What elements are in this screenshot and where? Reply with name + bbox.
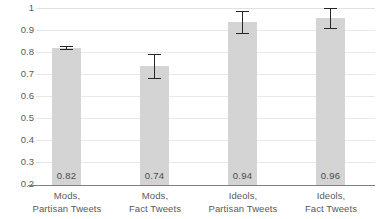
bar-mods-partisan-tweets — [52, 48, 81, 185]
x-axis-label-mods-partisan-tweets: Mods, Partisan Tweets — [22, 190, 112, 215]
error-bar-mods-fact-tweets — [148, 54, 161, 79]
x-axis-label-line2: Fact Tweets — [110, 203, 200, 216]
x-axis-label-line2: Fact Tweets — [286, 203, 376, 216]
x-axis-label-line1: Ideols, — [286, 190, 376, 203]
y-axis-tick-0.7: 0.7 — [0, 69, 34, 78]
x-axis-line — [28, 185, 375, 186]
error-bar-cap-top — [60, 46, 73, 47]
error-bar-cap-bottom — [148, 78, 161, 79]
y-axis-tick-0.3: 0.3 — [0, 157, 34, 166]
error-bar-stem — [330, 8, 331, 29]
x-axis-label-ideols-partisan-tweets: Ideols, Partisan Tweets — [198, 190, 288, 215]
error-bar-cap-bottom — [60, 49, 73, 50]
error-bar-ideols-fact-tweets — [324, 8, 337, 29]
error-bar-cap-bottom — [236, 33, 249, 34]
bar-chart: 1 0.9 0.8 0.7 0.6 0.5 0.4 0.3 0.2 — [0, 0, 379, 219]
error-bar-mods-partisan-tweets — [60, 46, 73, 50]
x-axis-label-mods-fact-tweets: Mods, Fact Tweets — [110, 190, 200, 215]
data-label-ideols-partisan-tweets: 0.94 — [226, 171, 259, 181]
bar-mods-fact-tweets — [140, 66, 169, 185]
data-label-mods-fact-tweets: 0.74 — [138, 171, 171, 181]
x-axis-label-line1: Mods, — [110, 190, 200, 203]
bar-ideols-fact-tweets — [316, 18, 345, 185]
bar-ideols-partisan-tweets — [228, 22, 257, 185]
error-bar-stem — [154, 54, 155, 79]
error-bar-cap-top — [148, 54, 161, 55]
data-label-mods-partisan-tweets: 0.82 — [50, 171, 83, 181]
x-axis-label-line1: Mods, — [22, 190, 112, 203]
y-axis-tick-1: 1 — [0, 3, 34, 12]
y-axis-tick-0.6: 0.6 — [0, 91, 34, 100]
y-axis-tick-0.9: 0.9 — [0, 25, 34, 34]
error-bar-cap-top — [324, 8, 337, 9]
error-bar-ideols-partisan-tweets — [236, 11, 249, 34]
y-axis-tick-0.4: 0.4 — [0, 135, 34, 144]
x-axis-label-line1: Ideols, — [198, 190, 288, 203]
y-axis-tick-0.5: 0.5 — [0, 113, 34, 122]
error-bar-stem — [242, 11, 243, 34]
error-bar-cap-bottom — [324, 28, 337, 29]
x-axis-label-line2: Partisan Tweets — [198, 203, 288, 216]
error-bar-cap-top — [236, 11, 249, 12]
y-axis-tick-0.8: 0.8 — [0, 47, 34, 56]
y-axis-tick-0.2: 0.2 — [0, 179, 34, 188]
x-axis-label-line2: Partisan Tweets — [22, 203, 112, 216]
x-axis-label-ideols-fact-tweets: Ideols, Fact Tweets — [286, 190, 376, 215]
data-label-ideols-fact-tweets: 0.96 — [314, 171, 347, 181]
